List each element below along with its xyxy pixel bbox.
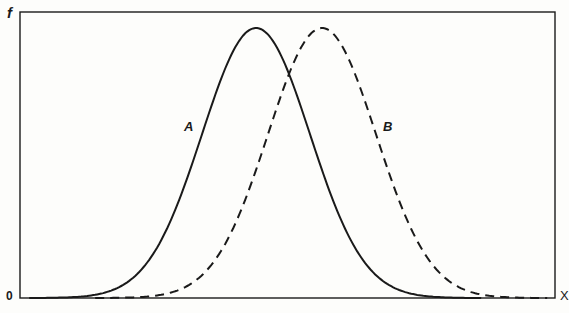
curve-b-label: B xyxy=(383,119,392,134)
curve-a-label: A xyxy=(184,119,193,134)
x-axis-label: X xyxy=(560,288,569,303)
curve-a xyxy=(29,28,481,298)
y-axis-label: f xyxy=(7,4,12,21)
distribution-diagram xyxy=(0,0,569,313)
origin-label: 0 xyxy=(6,289,13,303)
curve-b xyxy=(95,28,547,298)
plot-frame xyxy=(20,12,555,298)
